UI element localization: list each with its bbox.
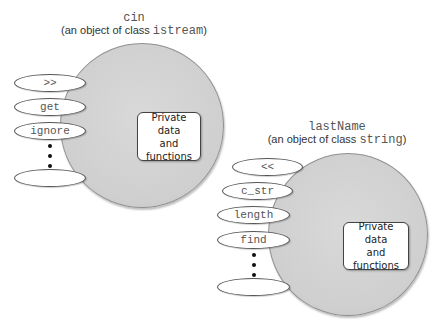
method-extraction-operator: >> — [14, 74, 86, 92]
method-blank — [14, 169, 86, 187]
object-subtitle-lastname: (an object of class string) — [252, 133, 422, 147]
subtitle-suffix: ) — [403, 133, 407, 145]
private-data-box-cin: Private data and functions — [137, 112, 201, 161]
method-length: length — [217, 206, 290, 224]
object-subtitle-cin: (an object of class istream) — [54, 24, 214, 38]
method-blank — [217, 278, 290, 296]
ellipsis-dot-icon — [252, 263, 256, 267]
class-name-string: string — [359, 133, 402, 147]
subtitle-prefix: (an object of class — [268, 133, 360, 145]
method-insertion-operator: << — [232, 158, 303, 176]
method-find: find — [217, 231, 290, 249]
ellipsis-dot-icon — [48, 164, 52, 168]
subtitle-suffix: ) — [203, 24, 207, 36]
object-name-lastname: lastName — [277, 120, 397, 134]
object-name-cin: cin — [74, 11, 194, 25]
private-data-box-lastname: Private data and functions — [343, 222, 409, 270]
ellipsis-dot-icon — [252, 273, 256, 277]
method-get: get — [14, 98, 86, 116]
ellipsis-dot-icon — [48, 154, 52, 158]
method-ignore: ignore — [14, 122, 86, 140]
ellipsis-dot-icon — [252, 253, 256, 257]
class-name-istream: istream — [153, 24, 203, 38]
subtitle-prefix: (an object of class — [61, 24, 153, 36]
ellipsis-dot-icon — [48, 144, 52, 148]
method-c-str: c_str — [222, 182, 293, 200]
